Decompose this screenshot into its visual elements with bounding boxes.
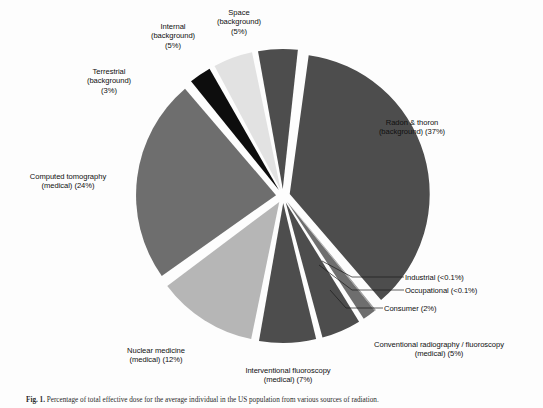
slice-label-interventional-fluoroscopy: Interventional fluoroscopy (medical) (7%… <box>212 366 364 385</box>
slice-label-industrial: Industrial (<0.1%) <box>405 273 464 282</box>
slice-label-terrestrial: Terrestrial (background) (3%) <box>66 67 152 95</box>
figure-caption: Fig. 1. Percentage of total effective do… <box>26 396 526 408</box>
caption-figure-number: Fig. 1. <box>26 396 45 404</box>
slice-label-occupational: Occupational (<0.1%) <box>405 286 477 295</box>
slice-label-conventional-radiography: Conventional radiography / fluoroscopy (… <box>338 340 540 359</box>
slice-label-consumer: Consumer (2%) <box>384 304 437 313</box>
slice-label-nuclear-medicine: Nuclear medicine (medical) (12%) <box>94 346 218 365</box>
caption-body: Percentage of total effective dose for t… <box>47 396 379 404</box>
pie-slices-group <box>136 49 430 343</box>
slice-label-computed-tomography: Computed tomography (medical) (24%) <box>6 172 130 191</box>
slice-label-internal: Internal (background) (5%) <box>130 22 216 50</box>
slice-label-radon-thoron: Radon & thoron (background) (37%) <box>352 118 472 137</box>
figure-container: Radon & thoron (background) (37%) Space … <box>0 0 543 408</box>
